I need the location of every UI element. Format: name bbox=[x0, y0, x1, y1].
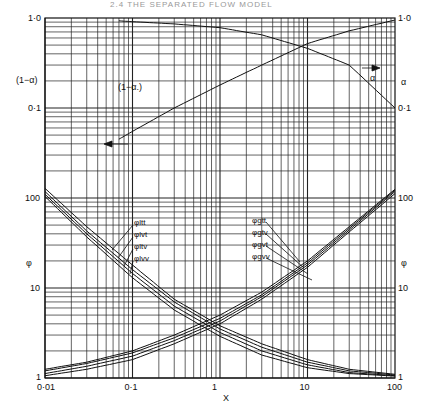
legend-φgvt: φgvt bbox=[252, 240, 268, 249]
x-tick-1: 1 bbox=[212, 382, 217, 392]
x-tick-100: 100 bbox=[387, 382, 402, 392]
y-tick-right-1: 1 bbox=[398, 372, 403, 382]
y-axis-label-one-minus-alpha: (1−α) bbox=[16, 75, 37, 85]
x-axis-label: X bbox=[223, 393, 229, 403]
y-axis-label-phi: φ bbox=[26, 258, 32, 268]
annotation-alpha: α bbox=[370, 73, 375, 83]
legend-φgtt: φgtt bbox=[252, 216, 266, 225]
y-tick-left-100: 100 bbox=[25, 193, 40, 203]
y-tick-left-10: 10 bbox=[30, 283, 40, 293]
legend-φlvt: φlvt bbox=[134, 230, 147, 239]
y-tick-left-1: 1 bbox=[36, 372, 41, 382]
y-tick-right-0.1: 0·1 bbox=[398, 103, 411, 113]
annotation-one-minus-alpha: (1−α.) bbox=[118, 82, 142, 92]
y-axis-label-alpha: α bbox=[401, 77, 406, 87]
y-tick-left-1: 1·0 bbox=[28, 13, 41, 23]
x-tick-0·01: 0·01 bbox=[37, 382, 55, 392]
curve-alpha bbox=[119, 21, 395, 108]
y-axis-label-phi-right: φ bbox=[401, 258, 407, 268]
legend-φltt: φltt bbox=[134, 218, 145, 227]
x-tick-10: 10 bbox=[300, 382, 310, 392]
y-tick-right-10: 10 bbox=[398, 283, 408, 293]
legend-φgvv: φgvv bbox=[252, 252, 270, 261]
y-tick-right-100: 100 bbox=[398, 193, 413, 203]
legend-φlvv: φlvv bbox=[134, 254, 149, 263]
x-tick-0·1: 0·1 bbox=[125, 382, 138, 392]
lockhart-martinelli-chart bbox=[0, 0, 427, 412]
y-tick-left-0.1: 0·1 bbox=[28, 103, 41, 113]
y-tick-right-1: 1·0 bbox=[398, 13, 411, 23]
legend-φltv: φltv bbox=[134, 242, 147, 251]
legend-φgtv: φgtv bbox=[252, 228, 268, 237]
